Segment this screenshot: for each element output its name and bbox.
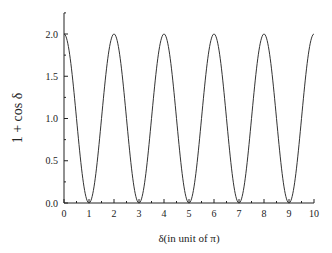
x-tick-label: 3 <box>137 208 142 219</box>
y-tick-label: 1.0 <box>46 113 59 124</box>
x-tick-label: 9 <box>287 208 292 219</box>
line-chart: 012345678910 0.00.51.01.52.0 δ(in unit o… <box>0 0 332 253</box>
axes <box>64 13 314 203</box>
x-tick-label: 2 <box>112 208 117 219</box>
x-tick-label: 5 <box>187 208 192 219</box>
y-axis-ticks: 0.00.51.01.52.0 <box>46 13 69 209</box>
x-tick-label: 0 <box>62 208 67 219</box>
y-tick-label: 0.5 <box>46 155 59 166</box>
x-tick-label: 10 <box>309 208 319 219</box>
x-tick-label: 8 <box>262 208 267 219</box>
x-tick-label: 6 <box>212 208 217 219</box>
x-tick-label: 7 <box>237 208 242 219</box>
y-axis-label: 1 + cos δ <box>10 92 25 143</box>
x-axis-label: δ(in unit of π) <box>158 232 219 245</box>
y-tick-label: 0.0 <box>46 198 59 209</box>
x-tick-label: 1 <box>87 208 92 219</box>
x-tick-label: 4 <box>162 208 167 219</box>
y-tick-label: 2.0 <box>46 29 59 40</box>
data-line <box>64 34 314 203</box>
y-tick-label: 1.5 <box>46 71 59 82</box>
